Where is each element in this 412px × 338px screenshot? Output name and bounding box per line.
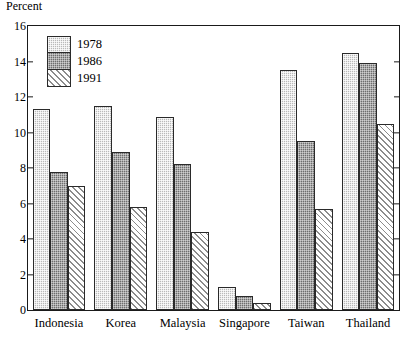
bar-chart: Percent 1614121086420 IndonesiaKoreaMala… bbox=[0, 0, 412, 338]
legend-swatch bbox=[47, 53, 71, 70]
legend-item: 1986 bbox=[47, 53, 119, 70]
y-tick-label: 6 bbox=[20, 198, 26, 210]
y-axis-label: Percent bbox=[6, 0, 42, 13]
bar bbox=[191, 232, 209, 310]
y-tick-label: 14 bbox=[14, 56, 26, 68]
y-tick-label: 10 bbox=[14, 127, 26, 139]
bar bbox=[315, 209, 333, 310]
bar bbox=[68, 186, 86, 310]
bar bbox=[218, 287, 236, 310]
y-tick-label: 16 bbox=[14, 20, 26, 32]
legend: 197819861991 bbox=[47, 36, 119, 87]
legend-item: 1991 bbox=[47, 70, 119, 87]
bar bbox=[236, 296, 254, 310]
y-tick-label: 12 bbox=[14, 91, 26, 103]
legend-label: 1986 bbox=[77, 54, 102, 69]
bar bbox=[94, 106, 112, 310]
bar bbox=[342, 53, 360, 310]
x-axis-category-label: Korea bbox=[105, 316, 136, 330]
y-tick-label: 8 bbox=[20, 162, 26, 174]
bar bbox=[280, 70, 298, 310]
y-tick-label: 0 bbox=[20, 304, 26, 316]
bar bbox=[174, 164, 192, 310]
x-axis-category-label: Malaysia bbox=[160, 316, 206, 330]
x-axis-category-label: Taiwan bbox=[288, 316, 325, 330]
bar bbox=[130, 207, 148, 310]
bar bbox=[33, 109, 51, 310]
legend-swatch bbox=[47, 70, 71, 87]
bar bbox=[377, 124, 395, 310]
x-axis-category-label: Indonesia bbox=[35, 316, 84, 330]
x-axis-category-label: Singapore bbox=[219, 316, 270, 330]
x-axis-category-label: Thailand bbox=[346, 316, 390, 330]
legend-label: 1978 bbox=[77, 37, 102, 52]
bar bbox=[156, 117, 174, 310]
bar bbox=[112, 152, 130, 310]
legend-label: 1991 bbox=[77, 71, 102, 86]
legend-item: 1978 bbox=[47, 36, 119, 53]
y-tick-label: 2 bbox=[20, 269, 26, 281]
bar bbox=[50, 172, 68, 310]
bar bbox=[297, 141, 315, 310]
bar bbox=[253, 303, 271, 310]
bar bbox=[359, 63, 377, 310]
legend-swatch bbox=[47, 36, 71, 53]
y-tick-label: 4 bbox=[20, 233, 26, 245]
